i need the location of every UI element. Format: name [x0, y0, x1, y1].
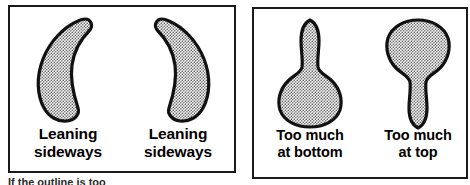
caption-line-2: sideways: [122, 143, 234, 161]
cropped-body-text-line: If the outline is too: [8, 178, 208, 185]
caption-top-heavy: Too much at top: [366, 127, 470, 161]
caption-line-1: Leaning: [122, 125, 234, 143]
caption-line-1: Leaning: [12, 125, 124, 143]
shape-crescent-bulging-right: [122, 15, 234, 127]
figure-item-leaning-right: Leaning sideways: [122, 7, 234, 171]
caption-bottom-heavy: Too much at bottom: [258, 127, 362, 161]
panel-too-much-weight: Too much at bottom: [252, 7, 468, 179]
caption-line-2: at top: [366, 144, 470, 161]
caption-line-1: Too much: [258, 127, 362, 144]
caption-line-1: Too much: [366, 127, 470, 144]
figure-item-bottom-heavy: Too much at bottom: [258, 9, 362, 177]
caption-leaning-right: Leaning sideways: [122, 125, 234, 161]
caption-line-2: sideways: [12, 143, 124, 161]
shape-crescent-bulging-left: [12, 15, 124, 127]
shape-pear-bottom-heavy: [258, 15, 362, 129]
figure-item-leaning-left: Leaning sideways: [12, 7, 124, 171]
cropped-body-text: If the outline is too: [8, 178, 208, 185]
panel-leaning-sideways: Leaning sideways L: [8, 5, 236, 173]
shape-pear-top-heavy: [366, 15, 470, 129]
caption-line-2: at bottom: [258, 144, 362, 161]
caption-leaning-left: Leaning sideways: [12, 125, 124, 161]
figure-item-top-heavy: Too much at top: [366, 9, 470, 177]
